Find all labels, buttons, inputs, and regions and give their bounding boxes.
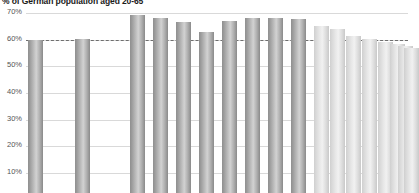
y-axis-tick-label: 10% — [0, 167, 22, 176]
y-axis-tick-label: 70% — [0, 7, 22, 16]
bar-b3 — [130, 15, 145, 193]
bar-b11 — [314, 26, 329, 193]
y-axis-tick-label: 50% — [0, 60, 22, 69]
y-axis-tick-label: 20% — [0, 140, 22, 149]
y-axis-tick-label: 40% — [0, 87, 22, 96]
bar-b5 — [176, 22, 191, 193]
bar-b12 — [330, 29, 345, 193]
bar-b8 — [245, 18, 260, 193]
bar-b4 — [153, 18, 168, 193]
gridline-70: 70% — [26, 13, 408, 14]
bar-b1 — [28, 40, 43, 193]
y-axis-tick-label: 60% — [0, 34, 22, 43]
bar-b13 — [346, 36, 361, 193]
plot-area: 10%20%30%40%50%60%70% — [26, 0, 408, 193]
bar-b7 — [222, 21, 237, 193]
bar-b9 — [268, 18, 283, 193]
bar-b10 — [291, 19, 306, 193]
bar-b2 — [75, 39, 90, 193]
bar-b6 — [199, 32, 214, 193]
bar-b14 — [362, 39, 377, 193]
y-axis-tick-label: 30% — [0, 114, 22, 123]
bar-b18 — [404, 48, 419, 193]
